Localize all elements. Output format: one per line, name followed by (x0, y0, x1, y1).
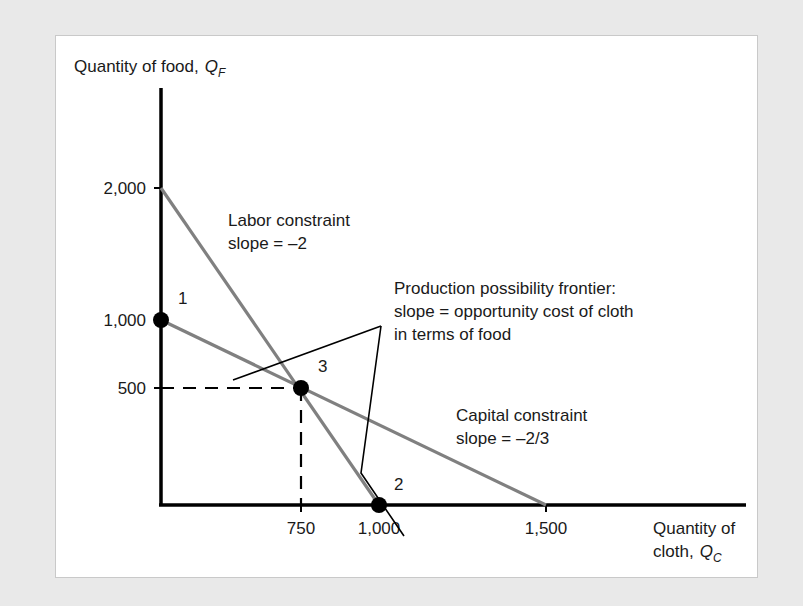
x-axis-title-subscript: C (713, 551, 722, 565)
ppf-label-line3: in terms of food (394, 325, 511, 344)
x-axis-title-line2: cloth,QC (653, 542, 722, 565)
data-point-1-marker (153, 312, 169, 328)
data-point-2-marker (371, 497, 387, 513)
ppf-label-line1: Production possibility frontier: (394, 279, 616, 298)
x-tick-label-1500: 1,500 (525, 519, 568, 538)
capital-constraint-label-line2: slope = –2/3 (456, 429, 549, 448)
y-tick-label-2000: 2,000 (103, 179, 146, 198)
y-tick-label-1000: 1,000 (103, 311, 146, 330)
labor-constraint-label-line1: Labor constraint (228, 211, 350, 230)
ppf-chart: Quantity of food,QF 2,000 1,000 500 750 … (56, 36, 759, 579)
x-axis-title-text: cloth, (653, 542, 694, 561)
data-point-3-label: 3 (318, 357, 327, 376)
ppf-leader-line-upper (233, 326, 381, 380)
capital-constraint-label-line1: Capital constraint (456, 406, 588, 425)
y-axis-title-text: Quantity of food, (74, 57, 199, 76)
x-axis-title-line1: Quantity of (653, 519, 735, 538)
data-point-3-marker (293, 380, 309, 396)
figure-root: Quantity of food,QF 2,000 1,000 500 750 … (0, 0, 803, 606)
ppf-label-line2: slope = opportunity cost of cloth (394, 302, 634, 321)
y-axis-title-subscript: F (218, 66, 226, 80)
labor-constraint-label-line2: slope = –2 (228, 234, 307, 253)
y-axis-title: Quantity of food,QF (74, 57, 226, 80)
figure-panel: Quantity of food,QF 2,000 1,000 500 750 … (55, 35, 758, 578)
data-point-1-label: 1 (178, 289, 187, 308)
y-tick-label-500: 500 (118, 379, 146, 398)
data-point-2-label: 2 (394, 475, 403, 494)
x-axis-title-symbol: Q (700, 542, 713, 561)
x-tick-label-750: 750 (287, 519, 315, 538)
y-axis-title-symbol: Q (205, 57, 218, 76)
